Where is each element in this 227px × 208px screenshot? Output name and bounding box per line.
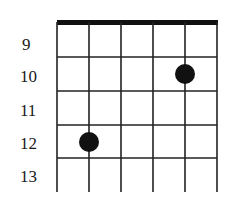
fretboard-diagram: 9 10 11 12 13: [0, 0, 227, 208]
fret-label-10: 10: [20, 67, 37, 86]
fret-label-13: 13: [20, 167, 37, 186]
fret-label-11: 11: [20, 101, 36, 120]
fret-label-9: 9: [22, 35, 31, 54]
fret-label-12: 12: [20, 134, 37, 153]
finger-dot: [79, 132, 99, 152]
strings: [57, 22, 217, 192]
nut-bar: [57, 20, 218, 25]
finger-dot: [175, 64, 195, 84]
